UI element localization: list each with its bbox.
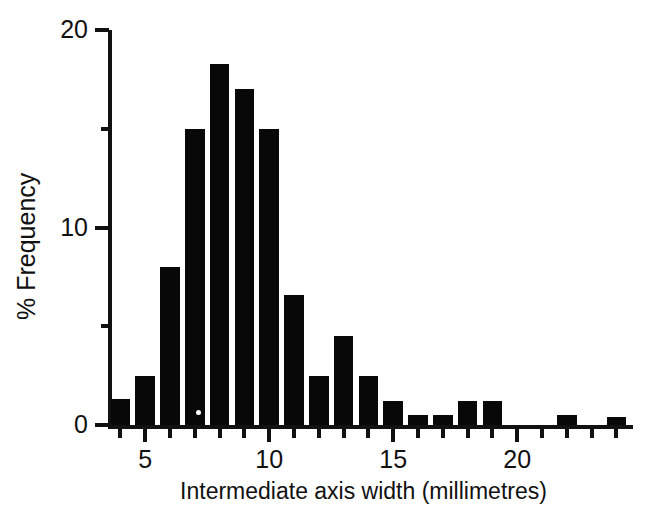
bar — [160, 267, 180, 425]
x-tick-label: 15 — [363, 447, 423, 472]
y-tick-major — [95, 226, 109, 230]
bar — [607, 417, 627, 425]
y-tick-minor — [101, 324, 109, 328]
x-tick-label: 10 — [239, 447, 299, 472]
bar — [458, 401, 478, 425]
y-tick-label: 20 — [60, 17, 88, 42]
y-tick-label: 0 — [74, 412, 88, 437]
x-tick-minor — [466, 429, 470, 438]
x-tick-minor — [317, 429, 321, 438]
bar — [235, 89, 255, 425]
figure-caption — [12, 496, 652, 513]
bar — [334, 336, 354, 425]
bar — [433, 415, 453, 425]
x-tick-major — [267, 429, 271, 442]
x-tick-major — [143, 429, 147, 442]
x-axis-spine — [108, 425, 633, 429]
bar — [259, 129, 279, 425]
x-tick-minor — [193, 429, 197, 438]
bar — [210, 64, 230, 425]
x-tick-minor — [614, 429, 618, 438]
figure-container: % Frequency 01020 5101520 Intermediate a… — [0, 0, 667, 513]
x-tick-minor — [441, 429, 445, 438]
x-tick-minor — [342, 429, 346, 438]
y-tick-minor — [101, 127, 109, 131]
y-tick-major — [95, 28, 109, 32]
x-tick-minor — [540, 429, 544, 438]
x-tick-major — [391, 429, 395, 442]
bar — [383, 401, 403, 425]
bar — [111, 399, 131, 425]
bar — [557, 415, 577, 425]
scan-artifact — [281, 131, 285, 135]
y-tick-major — [95, 423, 109, 427]
x-tick-minor — [118, 429, 122, 438]
x-tick-minor — [416, 429, 420, 438]
bar — [408, 415, 428, 425]
bar — [185, 129, 205, 425]
x-tick-minor — [565, 429, 569, 438]
scan-artifact — [196, 410, 201, 415]
x-tick-minor — [292, 429, 296, 438]
x-tick-major — [515, 429, 519, 442]
y-tick-label: 10 — [60, 215, 88, 240]
y-axis-spine — [108, 30, 112, 429]
bar — [284, 295, 304, 425]
x-tick-minor — [590, 429, 594, 438]
x-tick-label: 5 — [115, 447, 175, 472]
x-tick-minor — [366, 429, 370, 438]
bar — [135, 376, 155, 425]
bar — [483, 401, 503, 425]
x-tick-label: 20 — [487, 447, 547, 472]
bar — [309, 376, 329, 425]
histogram-chart: % Frequency 01020 5101520 Intermediate a… — [0, 0, 667, 495]
x-tick-minor — [242, 429, 246, 438]
x-tick-minor — [218, 429, 222, 438]
y-axis-title: % Frequency — [12, 173, 41, 320]
x-tick-minor — [490, 429, 494, 438]
bar — [359, 376, 379, 425]
x-tick-minor — [168, 429, 172, 438]
